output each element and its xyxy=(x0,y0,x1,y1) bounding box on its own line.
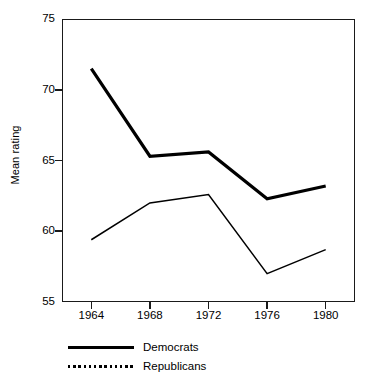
y-axis-tick-mark xyxy=(55,160,62,162)
y-axis-tick-mark xyxy=(55,230,62,232)
chart-legend: Democrats Republicans xyxy=(68,338,328,376)
x-axis-tick-mark xyxy=(208,302,210,309)
series-line-republicans xyxy=(91,194,325,273)
series-line-democrats xyxy=(91,69,325,199)
legend-label-democrats: Democrats xyxy=(143,342,199,354)
x-axis-tick-label: 1980 xyxy=(296,310,356,322)
x-axis-tick-mark xyxy=(325,302,327,309)
x-axis-tick-mark xyxy=(91,302,93,309)
x-axis-tick-mark xyxy=(266,302,268,309)
legend-item-democrats: Democrats xyxy=(68,338,328,357)
line-chart: Mean rating 5560657075 19641968197219761… xyxy=(0,0,389,382)
x-axis-tick-mark xyxy=(149,302,151,309)
x-axis-tick-label: 1968 xyxy=(120,310,180,322)
y-axis-tick-marks xyxy=(0,19,62,302)
legend-item-republicans: Republicans xyxy=(68,357,328,376)
x-axis-tick-labels: 19641968197219761980 xyxy=(62,310,355,328)
x-axis-tick-label: 1976 xyxy=(237,310,297,322)
plot-area xyxy=(62,19,355,302)
x-axis-tick-label: 1972 xyxy=(179,310,239,322)
legend-label-republicans: Republicans xyxy=(143,361,206,373)
y-axis-tick-mark xyxy=(55,89,62,91)
x-axis-tick-label: 1964 xyxy=(61,310,121,322)
dotted-line-icon xyxy=(68,361,134,373)
solid-thick-line-icon xyxy=(68,342,134,354)
